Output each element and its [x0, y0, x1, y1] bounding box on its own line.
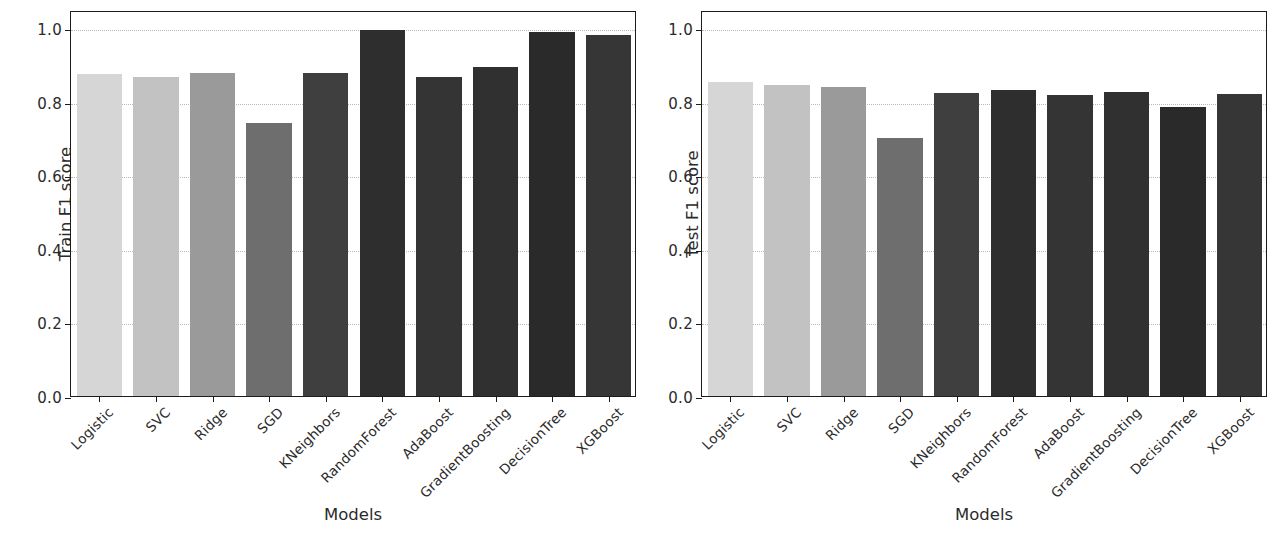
x-tick-mark	[957, 396, 958, 402]
bar	[1160, 107, 1205, 396]
bar-series-test	[702, 12, 1266, 396]
y-tick-mark	[696, 251, 702, 252]
y-tick-label: 0.2	[668, 315, 693, 333]
plot-axes-test: 0.00.20.40.60.81.0 LogisticSVCRidgeSGDKN…	[701, 11, 1267, 397]
y-tick-mark	[696, 177, 702, 178]
y-tick-mark	[65, 324, 71, 325]
x-tick-mark	[382, 396, 383, 402]
y-tick-label: 0.6	[668, 168, 693, 186]
x-tick-mark	[1070, 396, 1071, 402]
plot-area-train	[71, 12, 635, 396]
y-tick-mark	[65, 177, 71, 178]
y-tick-label: 0.4	[668, 242, 693, 260]
y-tick-mark	[696, 398, 702, 399]
y-tick-mark	[65, 251, 71, 252]
chart-panel-test: Test F1 score 0.00.20.40.60.81.0 Logisti…	[631, 0, 1262, 544]
bar	[991, 90, 1036, 396]
x-axis-label-test: Models	[701, 505, 1267, 524]
y-tick-mark	[65, 30, 71, 31]
x-tick-mark	[156, 396, 157, 402]
y-tick-label: 0.8	[668, 95, 693, 113]
bar	[246, 123, 291, 396]
bar	[586, 35, 631, 396]
x-tick-mark	[552, 396, 553, 402]
bar	[1104, 92, 1149, 396]
y-tick-label: 0.2	[37, 315, 62, 333]
x-axis-label-train: Models	[70, 505, 636, 524]
x-tick-mark	[99, 396, 100, 402]
y-tick-label: 0.8	[37, 95, 62, 113]
x-tick-mark	[1240, 396, 1241, 402]
bar	[529, 32, 574, 396]
plot-axes-train: 0.00.20.40.60.81.0 LogisticSVCRidgeSGDKN…	[70, 11, 636, 397]
y-tick-label: 1.0	[37, 21, 62, 39]
x-tick-mark	[730, 396, 731, 402]
chart-panel-train: Train F1 score 0.00.20.40.60.81.0 Logist…	[0, 0, 631, 544]
bar	[133, 77, 178, 396]
bar	[360, 30, 405, 396]
y-tick-label: 1.0	[668, 21, 693, 39]
x-tick-mark	[1127, 396, 1128, 402]
bar	[77, 74, 122, 396]
x-tick-mark	[787, 396, 788, 402]
bar	[821, 87, 866, 396]
y-tick-label: 0.4	[37, 242, 62, 260]
x-tick-mark	[609, 396, 610, 402]
x-tick-mark	[496, 396, 497, 402]
x-tick-mark	[439, 396, 440, 402]
bar	[473, 67, 518, 396]
bar	[764, 85, 809, 396]
bar	[416, 77, 461, 396]
y-tick-label: 0.0	[37, 389, 62, 407]
x-tick-mark	[326, 396, 327, 402]
bar	[1217, 94, 1262, 396]
y-tick-label: 0.6	[37, 168, 62, 186]
y-tick-mark	[696, 30, 702, 31]
y-tick-mark	[65, 398, 71, 399]
y-tick-mark	[696, 104, 702, 105]
bar	[1047, 95, 1092, 396]
bar	[708, 82, 753, 396]
x-tick-mark	[1183, 396, 1184, 402]
x-tick-mark	[269, 396, 270, 402]
x-tick-mark	[213, 396, 214, 402]
bar	[190, 73, 235, 396]
x-tick-mark	[844, 396, 845, 402]
bar-series-train	[71, 12, 635, 396]
x-tick-mark	[1013, 396, 1014, 402]
bar	[877, 138, 922, 396]
bar	[303, 73, 348, 396]
bar	[934, 93, 979, 396]
x-tick-mark	[900, 396, 901, 402]
y-tick-label: 0.0	[668, 389, 693, 407]
y-tick-mark	[65, 104, 71, 105]
plot-area-test	[702, 12, 1266, 396]
y-tick-mark	[696, 324, 702, 325]
